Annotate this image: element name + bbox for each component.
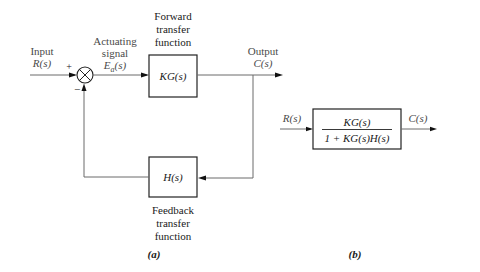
closed-loop-denominator: 1 + KG(s)H(s)	[325, 132, 390, 145]
forward-label-line1: Forward	[154, 10, 192, 22]
closed-loop-output-label: C(s)	[409, 112, 428, 125]
output-signal-label: C(s)	[254, 57, 273, 70]
summing-junction	[77, 67, 93, 83]
forward-label-line2: transfer	[156, 23, 190, 35]
forward-arrow-icon	[141, 73, 149, 78]
feedback-wire-left	[84, 86, 149, 177]
output-label: Output	[248, 45, 279, 57]
plus-sign: +	[66, 61, 72, 72]
block-diagram: KG(s) H(s) Input R(s) + − Actuating sign…	[0, 0, 480, 272]
forward-block-label: KG(s)	[159, 70, 187, 83]
feedback-wire-right	[201, 75, 253, 178]
feedback-label-line2: transfer	[156, 217, 190, 229]
feedback-block-label: H(s)	[162, 171, 183, 184]
input-label: Input	[30, 45, 53, 57]
feedback-label-line3: function	[155, 230, 192, 242]
input-signal-label: R(s)	[32, 57, 52, 70]
actuating-label-line2: signal	[102, 47, 128, 59]
output-arrow-icon	[275, 73, 283, 78]
forward-label-line3: function	[155, 36, 192, 48]
actuating-signal-label: Ea(s)	[103, 59, 127, 74]
feedback-return-arrow-icon	[82, 84, 87, 92]
input-arrow-icon	[69, 73, 77, 78]
feedback-arrow-icon	[198, 176, 206, 181]
closed-loop-input-arrow-icon	[306, 127, 313, 131]
feedback-label-line1: Feedback	[152, 204, 195, 216]
actuating-signal-suffix: (s)	[115, 59, 127, 72]
minus-sign: −	[74, 83, 80, 95]
closed-loop-output-arrow-icon	[430, 127, 437, 131]
closed-loop-input-label: R(s)	[282, 112, 302, 125]
actuating-label-line1: Actuating	[93, 35, 137, 47]
closed-loop-numerator: KG(s)	[343, 116, 371, 129]
panel-a-caption: (a)	[148, 248, 161, 261]
panel-b-caption: (b)	[349, 248, 362, 261]
